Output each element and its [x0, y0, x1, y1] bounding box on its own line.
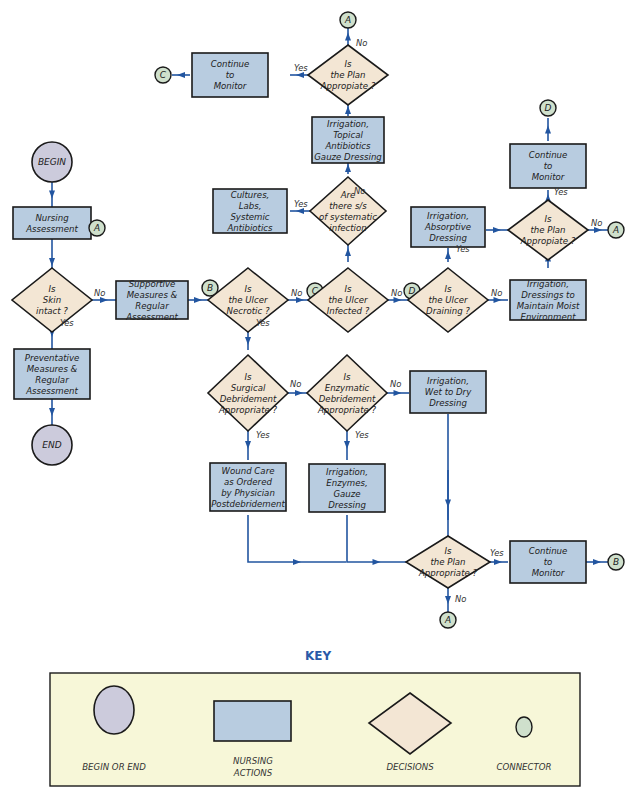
arrowhead [177, 72, 185, 78]
arrowhead [545, 126, 551, 134]
arrowhead [245, 441, 251, 449]
nursing-assessment-box: NursingAssessment [13, 207, 91, 239]
connector-letter: B [207, 283, 213, 293]
key-legend: KEYBEGIN OR ENDNURSINGACTIONSDECISIONSCO… [50, 649, 580, 786]
topical-box-text-line: Antibiotics [324, 141, 371, 151]
connector-a: A [608, 222, 624, 238]
cultures-box: Cultures,Labs,SystemicAntibiotics [213, 189, 287, 233]
necrotic-decision-text-line: Necrotic ? [226, 306, 269, 316]
plan-top-decision-text-line: Is [344, 59, 352, 69]
edge-label-no: No [354, 186, 365, 196]
key-label-diamond: DECISIONS [386, 762, 434, 772]
enzymatic-decision-text-line: Appropriate ? [317, 405, 377, 415]
connector-letter: C [160, 70, 167, 80]
connector-letter: D [545, 103, 552, 113]
key-nursing-actions-shape [214, 701, 291, 741]
necrotic-decision-text-line: Is [244, 284, 252, 294]
continue-right-box-text-line: Monitor [532, 172, 565, 182]
wetdry-box-text-line: Irrigation, [427, 376, 469, 386]
wound-care-flowchart: BEGINNursingAssessmentAIsSkinintact ?Pre… [0, 0, 636, 795]
edge-label-yes: Yes [456, 244, 470, 254]
edge-label-no: No [356, 38, 367, 48]
arrowhead [445, 251, 451, 259]
continue-bottom-box-text-line: to [544, 557, 553, 567]
moist-box-text-line: Maintain Moist [517, 301, 580, 311]
end-node: END [32, 425, 72, 465]
key-label-small-circle: CONNECTOR [496, 762, 551, 772]
draining-decision-text-line: Draining ? [426, 306, 470, 316]
arrowhead [394, 390, 402, 396]
plan-bottom-decision-text-line: the Plan [430, 557, 465, 567]
arrowhead [245, 337, 251, 345]
arrowhead [345, 33, 351, 41]
continue-right-box-text-line: to [544, 161, 553, 171]
edge-label-no: No [591, 218, 602, 228]
enzymes-box-text-line: Dressing [328, 500, 366, 510]
woundcare-box: Wound Careas Orderedby PhysicianPostdebr… [210, 463, 286, 511]
wetdry-box: Irrigation,Wet to DryDressing [410, 371, 486, 413]
arrowhead [493, 227, 501, 233]
arrowhead [345, 164, 351, 172]
continue-right-box: ContinuetoMonitor [510, 144, 586, 188]
edge-label-yes: Yes [60, 318, 74, 328]
woundcare-box-text-line: by Physician [221, 488, 275, 498]
continue-bottom-box-text-line: Monitor [532, 568, 565, 578]
arrowhead [194, 297, 202, 303]
connector-a: A [340, 12, 356, 28]
necrotic-decision: Isthe UlcerNecrotic ? [208, 268, 288, 332]
nursing-assessment-box-text-line: Nursing [35, 213, 69, 223]
wetdry-box-text-line: Dressing [429, 398, 467, 408]
cultures-box-text-line: Systemic [230, 212, 269, 222]
edge-label-yes: Yes [256, 318, 270, 328]
arrowhead [345, 106, 351, 114]
key-title: KEY [305, 649, 331, 663]
connector-letter: B [613, 557, 619, 567]
begin-node-text: BEGIN [38, 157, 66, 167]
plan-right-decision-text-line: the Plan [530, 225, 565, 235]
surgical-decision-text-line: Is [244, 372, 252, 382]
absorptive-box: Irrigation,AbsorptiveDressing [411, 207, 485, 247]
edge-label-no: No [290, 379, 301, 389]
preventative-box-text-line: Preventative [25, 353, 80, 363]
enzymes-box-text-line: Enzymes, [326, 478, 367, 488]
arrowhead [49, 191, 55, 199]
supportive-box: SupportiveMeasures &RegularAssessment [116, 279, 188, 322]
arrowhead [494, 559, 502, 565]
plan-bottom-decision: Isthe PlanAppropriate ? [406, 536, 490, 588]
systemic-decision: Arethere s/sof systematicinfection [310, 177, 386, 245]
arrowhead [295, 390, 303, 396]
nursing-assessment-box-text-line: Assessment [25, 224, 78, 234]
moist-box-text-line: Dressings to [521, 290, 575, 300]
edge-label-no: No [455, 594, 466, 604]
enzymes-to-plan-bottom [347, 515, 406, 562]
begin-node: BEGIN [32, 142, 72, 182]
plan-bottom-decision-text-line: Is [444, 546, 452, 556]
draining-decision-text-line: Is [444, 284, 452, 294]
plan-right-decision-text-line: Appropiate ? [520, 236, 576, 246]
surgical-decision: IsSurgicalDebridementAppropriate ? [208, 355, 288, 431]
plan-top-decision-text-line: the Plan [330, 70, 365, 80]
preventative-box: PreventativeMeasures &RegularAssessment [14, 349, 90, 399]
absorptive-box-text-line: Dressing [429, 233, 467, 243]
skin-intact-decision-text-line: Skin [43, 295, 61, 305]
edge-label-yes: Yes [294, 199, 308, 209]
enzymatic-decision-text-line: Enzymatic [325, 383, 370, 393]
connector-d: D [540, 100, 556, 116]
topical-box-text-line: Irrigation, [327, 119, 369, 129]
necrotic-decision-text-line: the Ulcer [228, 295, 268, 305]
continue-top-box: ContinuetoMonitor [192, 53, 268, 97]
connector-letter: A [93, 223, 100, 233]
cultures-box-text-line: Cultures, [231, 190, 270, 200]
draining-decision-text-line: the Ulcer [428, 295, 468, 305]
end-node-text: END [42, 440, 61, 450]
arrowhead [445, 500, 451, 508]
connector-a: A [89, 220, 105, 236]
absorptive-box-text-line: Absorptive [424, 222, 471, 232]
edge-label-no: No [390, 379, 401, 389]
key-label-rectangle: ACTIONS [233, 768, 273, 778]
moist-box-text-line: Irrigation, [527, 279, 569, 289]
connector-c: C [155, 67, 171, 83]
edge-label-no: No [291, 288, 302, 298]
woundcare-box-text-line: as Ordered [224, 477, 272, 487]
continue-top-box-text-line: Monitor [214, 81, 247, 91]
